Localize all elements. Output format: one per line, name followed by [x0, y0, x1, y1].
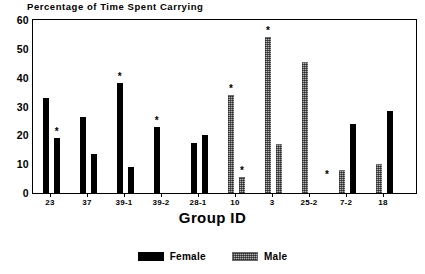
significance-asterisk: * [266, 26, 270, 36]
x-axis-tick-mark [198, 193, 199, 197]
y-axis-tick-label: 20 [17, 129, 29, 141]
y-axis-tick-label: 40 [17, 72, 29, 84]
y-axis-tick-label: 10 [17, 158, 29, 170]
bar-male [339, 170, 345, 193]
bar-female [80, 117, 86, 193]
significance-asterisk: * [155, 116, 159, 126]
bar-female [202, 135, 208, 193]
x-axis-tick-label: 25-2 [301, 198, 318, 207]
chart-root: Percentage of Time Spent Carrying 010203… [0, 0, 425, 274]
x-axis-tick-mark [272, 193, 273, 197]
bar-male [228, 95, 234, 193]
x-axis-tick-label: 18 [378, 198, 387, 207]
bar-male [302, 62, 308, 193]
x-axis-tick-label: 3 [270, 198, 275, 207]
bar-female [128, 167, 134, 193]
bar-female [43, 98, 49, 193]
x-axis-tick-mark [124, 193, 125, 197]
significance-asterisk: * [240, 166, 244, 176]
legend-swatch-female [138, 252, 164, 261]
bar-female [154, 127, 160, 193]
x-axis-tick-label: 28-1 [190, 198, 207, 207]
x-axis-tick-mark [235, 193, 236, 197]
bar-female [117, 83, 123, 193]
legend-label: Female [170, 251, 206, 262]
x-axis-tick-mark [309, 193, 310, 197]
chart-title: Percentage of Time Spent Carrying [27, 1, 203, 12]
x-axis-tick-mark [87, 193, 88, 197]
y-axis-tick-label: 50 [17, 43, 29, 55]
chart-legend: FemaleMale [0, 251, 425, 262]
bar-female [91, 154, 97, 193]
x-axis-tick-label: 37 [82, 198, 91, 207]
significance-asterisk: * [229, 84, 233, 94]
bar-male [265, 37, 271, 193]
significance-asterisk: * [118, 72, 122, 82]
legend-swatch-male [232, 252, 258, 261]
legend-item-female: Female [138, 251, 206, 262]
significance-asterisk: * [55, 127, 59, 137]
y-axis: 0102030405060 [0, 19, 29, 194]
x-axis-tick-mark [50, 193, 51, 197]
x-axis-tick-label: 39-1 [116, 198, 133, 207]
significance-asterisk: * [325, 170, 329, 180]
x-axis-tick-label: 10 [230, 198, 239, 207]
plot-inner: ******* [33, 20, 416, 193]
bar-male [376, 164, 382, 193]
y-axis-tick-label: 30 [17, 101, 29, 113]
x-axis-title: Group ID [0, 209, 425, 226]
y-axis-tick-label: 60 [17, 14, 29, 26]
bar-female [54, 138, 60, 193]
legend-item-male: Male [232, 251, 287, 262]
bar-female [387, 111, 393, 193]
bar-male [276, 144, 282, 193]
x-axis-tick-mark [346, 193, 347, 197]
legend-label: Male [264, 251, 287, 262]
bar-female [191, 143, 197, 193]
plot-area: ******* [32, 19, 417, 194]
bar-male [239, 177, 245, 193]
x-axis-tick-label: 23 [45, 198, 54, 207]
x-axis-tick-mark [383, 193, 384, 197]
y-axis-tick-label: 0 [23, 187, 29, 199]
x-axis-tick-mark [161, 193, 162, 197]
bar-female [350, 124, 356, 193]
x-axis-tick-label: 7-2 [340, 198, 352, 207]
x-axis-tick-label: 39-2 [153, 198, 170, 207]
